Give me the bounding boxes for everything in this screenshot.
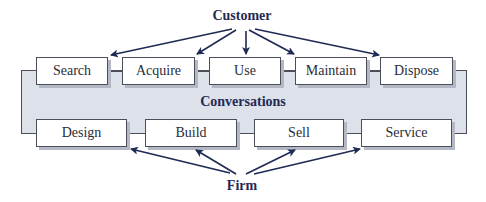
firm-arrows bbox=[131, 149, 360, 174]
arrow-icon bbox=[255, 29, 379, 55]
arrow-icon bbox=[197, 30, 236, 54]
arrow-icon bbox=[111, 29, 232, 55]
customer-arrows bbox=[111, 29, 379, 55]
arrow-icon bbox=[249, 30, 294, 54]
arrows bbox=[0, 0, 486, 202]
